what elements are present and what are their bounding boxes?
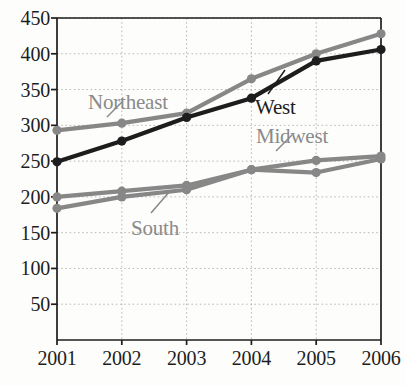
data-point-south-2002 <box>117 192 126 201</box>
data-point-south-2003 <box>182 185 191 194</box>
data-point-west-2001 <box>52 157 61 166</box>
y-axis-tick-label: 400 <box>0 44 50 64</box>
x-axis-tick-label: 2004 <box>221 348 281 368</box>
data-point-south-2001 <box>52 204 61 213</box>
y-axis-tick-label: 100 <box>0 258 50 278</box>
x-axis-tick-label: 2006 <box>351 348 405 368</box>
data-point-northeast-2004 <box>247 74 256 83</box>
y-axis-tick-label: 450 <box>0 8 50 28</box>
y-axis-tick-label: 200 <box>0 187 50 207</box>
data-point-northeast-2001 <box>52 126 61 135</box>
data-point-northeast-2002 <box>117 119 126 128</box>
y-axis-tick-label: 350 <box>0 80 50 100</box>
x-axis-tick-label: 2003 <box>157 348 217 368</box>
series-label-midwest: Midwest <box>256 126 328 147</box>
data-point-west-2002 <box>117 136 126 145</box>
series-label-northeast: Northeast <box>88 92 168 113</box>
data-point-south-2005 <box>312 168 321 177</box>
data-point-northeast-2006 <box>376 29 385 38</box>
series-line-midwest <box>57 156 381 197</box>
y-axis-tick-label: 250 <box>0 151 50 171</box>
x-axis-tick-label: 2005 <box>286 348 346 368</box>
data-point-midwest-2005 <box>312 156 321 165</box>
data-point-south-2006 <box>376 154 385 163</box>
data-point-midwest-2001 <box>52 192 61 201</box>
x-axis-tick-label: 2002 <box>92 348 152 368</box>
y-axis-tick-label: 50 <box>0 294 50 314</box>
x-axis-tick-label: 2001 <box>27 348 87 368</box>
data-point-south-2004 <box>247 165 256 174</box>
series-label-south: South <box>131 218 179 239</box>
y-axis-tick-label: 300 <box>0 115 50 135</box>
series-label-west: West <box>255 97 296 118</box>
data-point-west-2005 <box>312 56 321 65</box>
series-line-south <box>57 159 381 208</box>
series-line-northeast <box>57 34 381 131</box>
data-point-west-2006 <box>376 45 385 54</box>
y-axis-tick-label: 150 <box>0 223 50 243</box>
data-point-west-2003 <box>182 113 191 122</box>
